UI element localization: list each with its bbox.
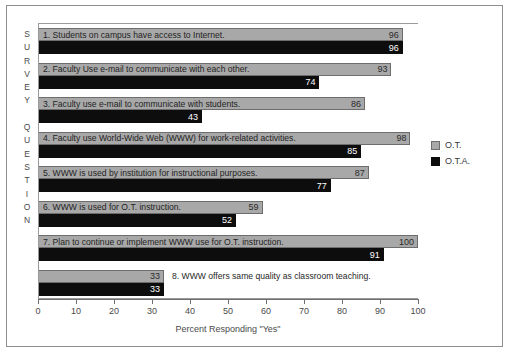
x-axis-tick-label: 0 bbox=[35, 306, 40, 316]
x-axis-tick-label: 60 bbox=[261, 306, 271, 316]
bar-row-ot[interactable]: 875. WWW is used by institution for inst… bbox=[39, 166, 418, 179]
bar-ota[interactable]: 33 bbox=[39, 283, 164, 296]
x-axis-tick-label: 90 bbox=[375, 306, 385, 316]
bar-value-label: 33 bbox=[150, 285, 160, 294]
x-axis-tick-label: 80 bbox=[337, 306, 347, 316]
legend-item-ot[interactable]: O.T. bbox=[431, 137, 497, 153]
bar-value-label: 74 bbox=[305, 78, 315, 87]
bar-row-ot[interactable]: 984. Faculty use World-Wide Web (WWW) fo… bbox=[39, 132, 418, 145]
bar-ota[interactable]: 91 bbox=[39, 248, 384, 261]
bar-ot[interactable]: 59 bbox=[39, 201, 263, 214]
bar-value-label: 43 bbox=[188, 112, 198, 121]
bar-row-ot[interactable]: 1007. Plan to continue or implement WWW … bbox=[39, 235, 418, 248]
x-axis-tick bbox=[114, 299, 115, 304]
y-axis-caption: SURVEYQUESTION bbox=[18, 28, 36, 318]
bar-value-label: 96 bbox=[389, 30, 399, 39]
bar-ota[interactable]: 52 bbox=[39, 214, 236, 227]
bar-value-label: 86 bbox=[351, 99, 361, 108]
legend-label: O.T. bbox=[445, 140, 462, 150]
x-axis-tick bbox=[190, 299, 191, 304]
y-caption-letter: E bbox=[18, 81, 36, 94]
bar-row-ot[interactable]: 961. Students on campus have access to I… bbox=[39, 28, 418, 41]
x-axis-title: Percent Responding "Yes" bbox=[38, 324, 418, 334]
bar-row-ota[interactable]: 85 bbox=[39, 145, 418, 158]
bar-ot[interactable]: 98 bbox=[39, 132, 410, 145]
bar-ot[interactable]: 87 bbox=[39, 166, 369, 179]
y-caption-letter: R bbox=[18, 55, 36, 68]
bar-row-ot[interactable]: 596. WWW is used for O.T. instruction. bbox=[39, 201, 418, 214]
x-axis-tick-label: 20 bbox=[109, 306, 119, 316]
bar-row-ota[interactable]: 96 bbox=[39, 41, 418, 54]
bar-row-ot[interactable]: 863. Faculty use e-mail to communicate w… bbox=[39, 97, 418, 110]
y-caption-letter: I bbox=[18, 188, 36, 201]
x-axis: 0102030405060708090100 bbox=[38, 299, 418, 300]
bar-ota[interactable]: 77 bbox=[39, 179, 331, 192]
x-axis-tick bbox=[76, 299, 77, 304]
y-caption-letter: U bbox=[18, 134, 36, 147]
x-axis-tick-label: 30 bbox=[147, 306, 157, 316]
bar-ot[interactable]: 33 bbox=[39, 270, 164, 283]
bar-value-label: 93 bbox=[377, 65, 387, 74]
x-axis-tick bbox=[152, 299, 153, 304]
x-axis-tick bbox=[304, 299, 305, 304]
legend-item-ota[interactable]: O.T.A. bbox=[431, 153, 497, 169]
x-axis-tick bbox=[266, 299, 267, 304]
y-caption-letter: U bbox=[18, 41, 36, 54]
y-caption-letter: S bbox=[18, 161, 36, 174]
chart-outer-frame: SURVEYQUESTION 961. Students on campus h… bbox=[6, 5, 503, 347]
bar-value-label: 59 bbox=[249, 203, 259, 212]
y-caption-letter: T bbox=[18, 174, 36, 187]
bar-row-ota[interactable]: 33 bbox=[39, 283, 418, 296]
bar-caption: 8. WWW offers same quality as classroom … bbox=[172, 272, 371, 281]
y-caption-letter: N bbox=[18, 214, 36, 227]
x-axis-tick bbox=[380, 299, 381, 304]
x-axis-tick-label: 100 bbox=[410, 306, 425, 316]
bar-value-label: 100 bbox=[399, 237, 414, 246]
bar-value-label: 52 bbox=[222, 216, 232, 225]
bar-row-ota[interactable]: 43 bbox=[39, 110, 418, 123]
y-caption-letter: V bbox=[18, 68, 36, 81]
bar-value-label: 87 bbox=[355, 168, 365, 177]
y-caption-gap bbox=[18, 108, 36, 121]
bar-row-ot[interactable]: 932. Faculty Use e-mail to communicate w… bbox=[39, 63, 418, 76]
y-caption-letter: E bbox=[18, 148, 36, 161]
bar-group: 338. WWW offers same quality as classroo… bbox=[39, 266, 418, 301]
legend-swatch-icon bbox=[431, 141, 440, 150]
bar-ota[interactable]: 43 bbox=[39, 110, 202, 123]
y-caption-letter: S bbox=[18, 28, 36, 41]
y-caption-letter: O bbox=[18, 201, 36, 214]
bar-value-label: 91 bbox=[370, 250, 380, 259]
bar-group: 1007. Plan to continue or implement WWW … bbox=[39, 231, 418, 266]
bar-ot[interactable]: 86 bbox=[39, 97, 365, 110]
y-caption-letter: Y bbox=[18, 94, 36, 107]
bar-ota[interactable]: 96 bbox=[39, 41, 403, 54]
bar-ot[interactable]: 100 bbox=[39, 235, 418, 248]
bar-group: 932. Faculty Use e-mail to communicate w… bbox=[39, 59, 418, 94]
x-axis-tick bbox=[228, 299, 229, 304]
bar-group: 596. WWW is used for O.T. instruction.52 bbox=[39, 197, 418, 232]
bar-value-label: 33 bbox=[150, 272, 160, 281]
bar-value-label: 85 bbox=[347, 147, 357, 156]
bar-group: 875. WWW is used by institution for inst… bbox=[39, 162, 418, 197]
bar-row-ota[interactable]: 91 bbox=[39, 248, 418, 261]
bar-row-ota[interactable]: 74 bbox=[39, 76, 418, 89]
bar-ota[interactable]: 85 bbox=[39, 145, 361, 158]
bar-group: 961. Students on campus have access to I… bbox=[39, 24, 418, 59]
bar-ota[interactable]: 74 bbox=[39, 76, 319, 89]
bar-value-label: 77 bbox=[317, 181, 327, 190]
x-axis-tick bbox=[418, 299, 419, 304]
y-caption-letter: Q bbox=[18, 121, 36, 134]
bar-value-label: 98 bbox=[396, 134, 406, 143]
bar-group: 863. Faculty use e-mail to communicate w… bbox=[39, 93, 418, 128]
bar-ot[interactable]: 96 bbox=[39, 28, 403, 41]
x-axis-tick-label: 70 bbox=[299, 306, 309, 316]
bar-ot[interactable]: 93 bbox=[39, 63, 391, 76]
x-axis-tick-label: 40 bbox=[185, 306, 195, 316]
bar-row-ota[interactable]: 77 bbox=[39, 179, 418, 192]
x-axis-tick bbox=[342, 299, 343, 304]
x-axis-tick-label: 50 bbox=[223, 306, 233, 316]
legend-swatch-icon bbox=[431, 157, 440, 166]
legend-label: O.T.A. bbox=[445, 156, 470, 166]
bar-row-ota[interactable]: 52 bbox=[39, 214, 418, 227]
bar-row-ot[interactable]: 338. WWW offers same quality as classroo… bbox=[39, 270, 418, 283]
